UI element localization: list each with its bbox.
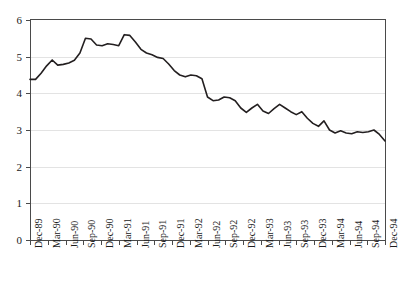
data-series-line [0,0,412,301]
series-1-polyline [30,35,385,141]
line-chart: 0123456 Dec-89Mar-90Jun-90Sep-90Dec-90Ma… [0,0,412,301]
